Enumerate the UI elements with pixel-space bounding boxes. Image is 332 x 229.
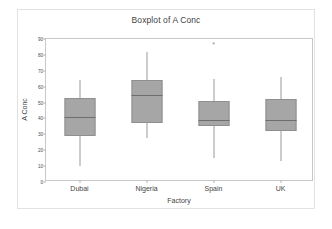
y-axis-title: A Conc [17, 38, 31, 181]
box-plot-group[interactable] [46, 39, 113, 180]
x-axis-tick-label: Nigeria [135, 185, 157, 192]
x-axis-tick-mark [280, 180, 281, 183]
median-line [265, 120, 296, 121]
box-plot-group[interactable]: * [180, 39, 247, 180]
chart-title: Boxplot of A Conc [17, 15, 315, 25]
x-axis-tick-mark [213, 180, 214, 183]
box-plot-group[interactable] [113, 39, 180, 180]
box-iqr[interactable] [198, 101, 229, 126]
box-iqr[interactable] [265, 99, 296, 131]
plot-area: 0102030405060708090DubaiNigeriaSpain*UK [45, 38, 313, 181]
x-axis-tick-label: Dubai [70, 185, 88, 192]
box-iqr[interactable] [131, 80, 162, 123]
median-line [64, 117, 95, 118]
y-axis-tick-mark [43, 182, 46, 183]
x-axis-tick-mark [146, 180, 147, 183]
box-plot-group[interactable] [247, 39, 314, 180]
boxplot-figure: Boxplot of A Conc A Conc 010203040506070… [0, 0, 332, 229]
outlier-marker[interactable]: * [212, 43, 215, 44]
median-line [198, 120, 229, 121]
x-axis-title: Factory [45, 197, 313, 204]
median-line [131, 95, 162, 96]
x-axis-tick-label: Spain [205, 185, 223, 192]
x-axis-tick-label: UK [276, 185, 286, 192]
y-axis-title-text: A Conc [21, 98, 28, 121]
x-axis-tick-mark [79, 180, 80, 183]
